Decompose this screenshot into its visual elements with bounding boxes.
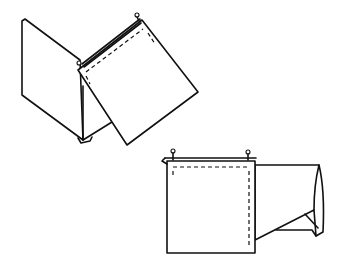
diagram-svg xyxy=(0,0,340,270)
figure-step-2 xyxy=(162,149,324,253)
diagram-canvas xyxy=(0,0,340,270)
left-panel xyxy=(22,19,83,140)
pin-icon xyxy=(77,61,81,65)
tilted-square xyxy=(78,20,198,145)
figure-step-1 xyxy=(22,13,198,145)
square-panel xyxy=(167,161,255,253)
right-flap xyxy=(255,165,324,240)
back-fold-line xyxy=(83,122,112,140)
